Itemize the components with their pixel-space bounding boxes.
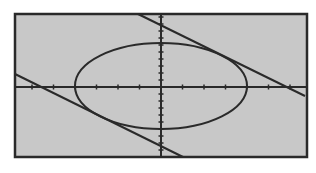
plot-canvas [0,0,316,173]
graph-window [0,0,316,173]
